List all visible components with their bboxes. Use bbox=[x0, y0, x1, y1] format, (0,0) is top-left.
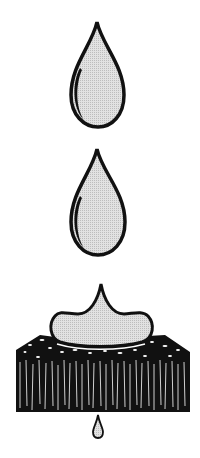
falling-drop-1 bbox=[71, 22, 124, 127]
falling-drop-2 bbox=[71, 149, 125, 255]
spreading-puddle bbox=[51, 284, 153, 349]
seeping-drop bbox=[93, 415, 103, 438]
water-absorption-illustration bbox=[0, 0, 200, 458]
